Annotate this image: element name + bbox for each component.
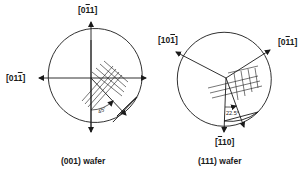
wafer-111-grid bbox=[208, 66, 262, 100]
wafer-001-outline bbox=[48, 28, 142, 122]
caption-111-wafer: (111) wafer bbox=[198, 157, 241, 166]
direction-label-left-001: [011] bbox=[6, 74, 25, 83]
caption-001-wafer: (001) wafer bbox=[61, 157, 105, 166]
direction-label-bottom-111: [110] bbox=[215, 138, 234, 147]
angle-label-22-5: 22.5° bbox=[226, 111, 239, 117]
direction-label-upper-left-111: [101] bbox=[158, 36, 178, 45]
angle-arc-22-5 bbox=[225, 106, 236, 107]
wafer-001-grid bbox=[82, 61, 128, 110]
diagram-canvas bbox=[0, 0, 305, 174]
direction-label-top-001: [011] bbox=[78, 6, 97, 15]
wafer-111 bbox=[176, 32, 271, 132]
direction-label-upper-right-111: [011] bbox=[278, 38, 297, 47]
wafer-001 bbox=[39, 22, 146, 132]
